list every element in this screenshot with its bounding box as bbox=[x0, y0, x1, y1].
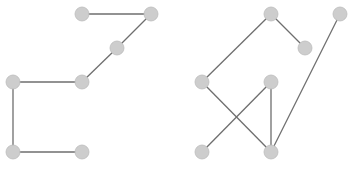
right-graph-edge-I-N bbox=[271, 14, 340, 152]
left-graph-node-G bbox=[75, 145, 89, 159]
nodes-layer bbox=[6, 7, 347, 159]
right-graph-node-J bbox=[298, 41, 312, 55]
right-graph-node-K bbox=[195, 75, 209, 89]
right-graph-node-I bbox=[333, 7, 347, 21]
left-graph-node-B bbox=[144, 7, 158, 21]
right-graph-edge-H-K bbox=[202, 14, 271, 82]
left-graph-node-F bbox=[6, 145, 20, 159]
right-graph-node-L bbox=[264, 75, 278, 89]
edges-layer bbox=[13, 14, 340, 152]
graph-canvas bbox=[0, 0, 352, 170]
left-graph-node-D bbox=[75, 75, 89, 89]
left-graph-node-A bbox=[75, 7, 89, 21]
left-graph-node-C bbox=[110, 41, 124, 55]
left-graph-node-E bbox=[6, 75, 20, 89]
right-graph-node-H bbox=[264, 7, 278, 21]
right-graph-node-M bbox=[195, 145, 209, 159]
right-graph-node-N bbox=[264, 145, 278, 159]
